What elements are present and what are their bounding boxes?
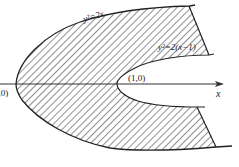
x-axis-label: x <box>215 88 221 99</box>
inner-curve-label: y²=2(x−1) <box>157 42 196 52</box>
diagram-canvas: x y²=2x y²=2(x−1) (1,0) (0,0) <box>0 0 239 167</box>
shaded-region <box>16 6 216 150</box>
inner-vertex-label: (1,0) <box>128 73 145 83</box>
origin-label: (0,0) <box>0 88 8 98</box>
